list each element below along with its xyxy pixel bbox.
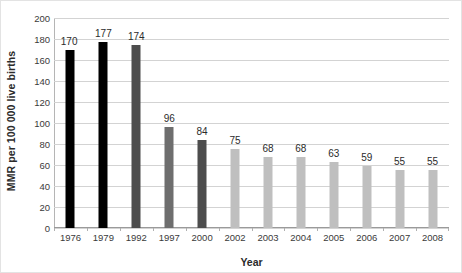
bar-group[interactable]: 68 <box>284 18 317 228</box>
y-axis-tick-label: 80 <box>20 140 50 150</box>
x-axis-tick-label: 1976 <box>54 233 87 243</box>
bar-value-label: 177 <box>95 29 112 39</box>
y-axis-tick-label: 40 <box>20 182 50 192</box>
bar-value-label: 174 <box>128 32 145 42</box>
y-axis-tick-label: 140 <box>20 77 50 87</box>
bar-value-label: 75 <box>229 136 240 146</box>
bar[interactable] <box>428 170 437 228</box>
x-axis-tick-label: 2002 <box>219 233 252 243</box>
x-axis-tickmark <box>416 228 417 231</box>
x-axis-tickmark <box>448 228 449 231</box>
bar-group[interactable]: 177 <box>87 18 120 228</box>
x-axis-tick-label: 2003 <box>252 233 285 243</box>
x-axis-tickmark <box>186 228 187 231</box>
x-axis-tick-label: 1979 <box>87 233 120 243</box>
bar-group[interactable]: 170 <box>54 18 87 228</box>
x-axis-tickmark <box>317 228 318 231</box>
bar-value-label: 59 <box>361 153 372 163</box>
x-axis-tickmark <box>284 228 285 231</box>
x-axis-tick-label: 1992 <box>120 233 153 243</box>
x-axis-tick-label: 2000 <box>186 233 219 243</box>
y-axis-tick-label: 200 <box>20 14 50 24</box>
bar[interactable] <box>329 162 338 228</box>
bar-group[interactable]: 84 <box>186 18 219 228</box>
bar[interactable] <box>132 45 141 228</box>
y-axis-tick-label: 160 <box>20 56 50 66</box>
x-axis-tickmark <box>120 228 121 231</box>
bar-value-label: 96 <box>164 114 175 124</box>
bar-group[interactable]: 55 <box>383 18 416 228</box>
y-axis-tick-labels: 200180160140120100806040200 <box>14 18 50 228</box>
y-axis-tick-label: 180 <box>20 35 50 45</box>
bar-group[interactable]: 96 <box>153 18 186 228</box>
y-axis-tick-label: 0 <box>20 224 50 234</box>
bar-value-label: 55 <box>427 157 438 167</box>
bar-group[interactable]: 55 <box>416 18 449 228</box>
bar[interactable] <box>66 50 75 229</box>
y-axis-tick-label: 60 <box>20 161 50 171</box>
bar-group[interactable]: 174 <box>120 18 153 228</box>
bar-value-label: 55 <box>394 157 405 167</box>
bar[interactable] <box>198 140 207 228</box>
x-axis-tickmark <box>219 228 220 231</box>
bar[interactable] <box>263 157 272 228</box>
x-axis-tick-label: 2008 <box>416 233 449 243</box>
bar-group[interactable]: 68 <box>252 18 285 228</box>
y-axis-tick-label: 100 <box>20 119 50 129</box>
x-axis-tickmark <box>383 228 384 231</box>
bar-value-label: 68 <box>295 144 306 154</box>
x-axis-tick-label: 2005 <box>317 233 350 243</box>
y-axis-tick-label: 120 <box>20 98 50 108</box>
bar-value-label: 170 <box>61 37 78 47</box>
x-axis-tickmark <box>87 228 88 231</box>
y-axis-tick-label: 20 <box>20 203 50 213</box>
x-axis-title: Year <box>54 256 449 268</box>
plot-area: 170177174968475686863595555 <box>54 18 449 228</box>
x-axis-tick-label: 2007 <box>383 233 416 243</box>
x-axis-tickmark <box>252 228 253 231</box>
x-axis-tickmark <box>350 228 351 231</box>
bar-value-label: 68 <box>262 144 273 154</box>
x-axis-tickmark <box>153 228 154 231</box>
bar[interactable] <box>395 170 404 228</box>
bar[interactable] <box>362 166 371 228</box>
x-axis-tick-label: 2006 <box>350 233 383 243</box>
x-axis-tick-label: 1997 <box>153 233 186 243</box>
x-axis-tick-labels: 1976197919921997200020022003200420052006… <box>54 233 449 247</box>
bar-value-label: 63 <box>328 149 339 159</box>
bar[interactable] <box>296 157 305 228</box>
x-axis-tickmark <box>54 228 55 231</box>
bar-group[interactable]: 75 <box>219 18 252 228</box>
bar[interactable] <box>231 149 240 228</box>
bar-value-label: 84 <box>197 127 208 137</box>
x-axis-tick-label: 2004 <box>284 233 317 243</box>
x-axis-title-label: Year <box>240 256 262 268</box>
bar[interactable] <box>99 42 108 228</box>
bar[interactable] <box>165 127 174 228</box>
bar-group[interactable]: 63 <box>317 18 350 228</box>
bar-group[interactable]: 59 <box>350 18 383 228</box>
bar-chart: MMR per 100 000 live births 200180160140… <box>0 0 462 273</box>
